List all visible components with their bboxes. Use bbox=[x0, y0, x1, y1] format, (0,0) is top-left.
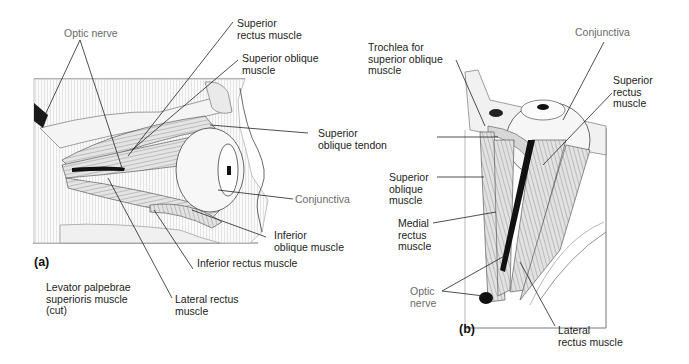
label-a-lateral-rectus: Lateral rectus muscle bbox=[175, 294, 239, 317]
panel-a-art bbox=[33, 79, 268, 243]
label-a-conjunctiva: Conjunctiva bbox=[295, 194, 350, 206]
label-a-superior-oblique: Superior oblique muscle bbox=[242, 53, 318, 76]
label-a-optic-nerve: Optic nerve bbox=[64, 28, 118, 40]
label-a-inferior-oblique: Inferior oblique muscle bbox=[274, 230, 344, 253]
eye-muscles-figure: Optic nerve Superior rectus muscle Super… bbox=[0, 0, 689, 364]
label-b-optic-nerve: Optic nerve bbox=[410, 286, 436, 309]
label-a-superior-oblique-tendon: Superior oblique tendon bbox=[318, 128, 387, 151]
label-b-conjunctiva: Conjunctiva bbox=[575, 27, 630, 39]
label-a-superior-rectus: Superior rectus muscle bbox=[237, 18, 302, 41]
label-b-superior-oblique: Superior oblique muscle bbox=[389, 172, 429, 207]
label-b-medial-rectus: Medial rectus muscle bbox=[398, 218, 431, 253]
panel-b-art bbox=[465, 70, 606, 328]
label-b-superior-rectus: Superior rectus muscle bbox=[613, 75, 653, 110]
panel-a-tag: (a) bbox=[34, 255, 49, 269]
label-a-inferior-rectus: Inferior rectus muscle bbox=[197, 258, 297, 270]
panel-b-tag: (b) bbox=[459, 322, 475, 336]
label-a-levator: Levator palpebrae superioris muscle (cut… bbox=[46, 282, 131, 317]
label-b-trochlea: Trochlea for superior oblique muscle bbox=[368, 42, 443, 77]
label-b-lateral-rectus: Lateral rectus muscle bbox=[558, 325, 623, 348]
